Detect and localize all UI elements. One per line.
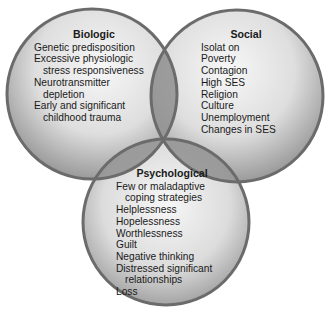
biologic-item: Early and significant <box>34 100 174 112</box>
social-text-block: Social Isolat on Poverty Contagion High … <box>201 29 311 135</box>
biologic-title: Biologic <box>34 29 154 41</box>
psychological-item: Guilt <box>116 239 246 251</box>
biologic-item: stress responsiveness <box>34 65 174 77</box>
social-item: Culture <box>201 100 311 112</box>
psychological-title: Psychological <box>116 168 228 180</box>
psychological-item: Hopelessness <box>116 216 246 228</box>
biologic-item: Genetic predisposition <box>34 42 174 54</box>
psychological-item: relationships <box>116 274 246 286</box>
biologic-text-block: Biologic Genetic predisposition Excessiv… <box>34 29 174 124</box>
social-item: Isolat on <box>201 42 311 54</box>
social-item: Poverty <box>201 53 311 65</box>
social-item: Changes in SES <box>201 124 311 136</box>
psychological-item: Helplessness <box>116 204 246 216</box>
social-title: Social <box>211 29 281 41</box>
social-item: Unemployment <box>201 112 311 124</box>
biologic-item: Neurotransmitter <box>34 77 174 89</box>
psychological-item: Distressed significant <box>116 263 246 275</box>
psychological-item: Few or maladaptive <box>116 181 246 193</box>
psychological-item: Worthlessness <box>116 228 246 240</box>
biologic-item: depletion <box>34 89 174 101</box>
psychological-item: Negative thinking <box>116 251 246 263</box>
psychological-item: coping strategies <box>116 192 246 204</box>
biologic-item: Excessive physiologic <box>34 53 174 65</box>
psychological-text-block: Psychological Few or maladaptive coping … <box>116 168 246 298</box>
social-item: Religion <box>201 89 311 101</box>
biologic-item: childhood trauma <box>34 112 174 124</box>
social-item: Contagion <box>201 65 311 77</box>
psychological-item: Loss <box>116 286 246 298</box>
social-item: High SES <box>201 77 311 89</box>
